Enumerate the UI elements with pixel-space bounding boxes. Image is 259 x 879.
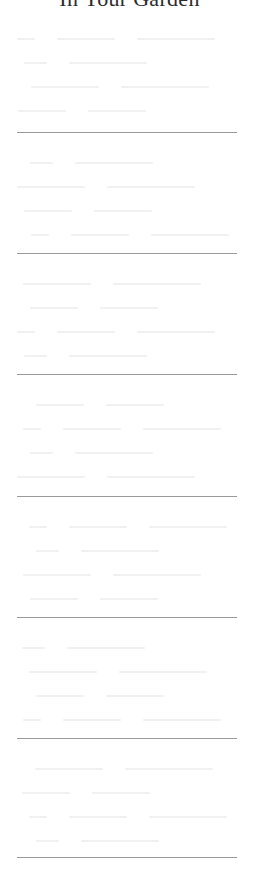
faint-text-line <box>36 404 84 406</box>
faint-text-line <box>81 840 159 842</box>
faint-text-line <box>121 86 209 88</box>
section-divider <box>17 857 237 858</box>
faint-text-line <box>106 695 164 697</box>
faint-text-line <box>29 526 47 528</box>
faint-text-line <box>81 550 159 552</box>
faint-text-line <box>30 307 78 309</box>
faint-text-line <box>24 210 72 212</box>
faint-text-line <box>151 234 229 236</box>
faint-text-line <box>119 671 207 673</box>
faint-text-line <box>125 768 213 770</box>
faint-text-line <box>113 574 201 576</box>
faint-text-line <box>23 283 91 285</box>
faint-text-line <box>35 768 103 770</box>
section-divider <box>17 496 237 497</box>
faint-text-line <box>106 404 164 406</box>
faint-text-line <box>137 38 215 40</box>
faint-text-line <box>69 62 147 64</box>
faint-text-line <box>67 647 145 649</box>
faint-text-line <box>23 574 91 576</box>
faint-text-line <box>63 719 121 721</box>
section-divider <box>17 374 237 375</box>
page-title: In Your Garden <box>0 0 259 12</box>
faint-text-line <box>149 526 227 528</box>
faint-text-line <box>137 331 215 333</box>
faint-text-line <box>107 186 195 188</box>
section-divider <box>17 738 237 739</box>
faint-text-line <box>69 816 127 818</box>
faint-text-line <box>17 476 85 478</box>
faint-text-line <box>23 719 41 721</box>
faint-text-line <box>143 719 221 721</box>
faint-text-line <box>24 355 47 357</box>
section-divider <box>17 617 237 618</box>
faint-text-line <box>92 792 150 794</box>
faint-text-line <box>57 38 115 40</box>
faint-text-line <box>29 671 97 673</box>
faint-text-line <box>29 816 47 818</box>
faint-text-line <box>30 162 53 164</box>
faint-text-line <box>88 110 146 112</box>
faint-text-line <box>31 234 49 236</box>
faint-text-line <box>24 62 47 64</box>
faint-text-line <box>94 210 152 212</box>
faint-text-line <box>36 695 84 697</box>
faint-text-line <box>100 307 158 309</box>
faint-text-line <box>69 526 127 528</box>
faint-text-line <box>36 840 59 842</box>
faint-text-line <box>69 355 147 357</box>
faint-text-line <box>63 428 121 430</box>
section-divider <box>17 132 237 133</box>
faint-text-line <box>23 428 41 430</box>
faint-text-line <box>36 550 59 552</box>
faint-text-line <box>17 38 35 40</box>
faint-text-line <box>149 816 227 818</box>
faint-text-line <box>30 598 78 600</box>
faint-text-line <box>31 86 99 88</box>
faint-text-line <box>143 428 221 430</box>
faint-text-line <box>71 234 129 236</box>
faint-text-line <box>17 331 35 333</box>
faint-text-line <box>75 452 153 454</box>
faint-text-line <box>100 598 158 600</box>
faint-text-line <box>22 647 45 649</box>
faint-text-line <box>75 162 153 164</box>
faint-text-line <box>107 476 195 478</box>
faint-text-line <box>17 186 85 188</box>
faint-text-line <box>22 792 70 794</box>
faint-text-line <box>113 283 201 285</box>
faint-text-line <box>18 110 66 112</box>
section-divider <box>17 253 237 254</box>
faint-text-line <box>30 452 53 454</box>
faint-text-line <box>57 331 115 333</box>
